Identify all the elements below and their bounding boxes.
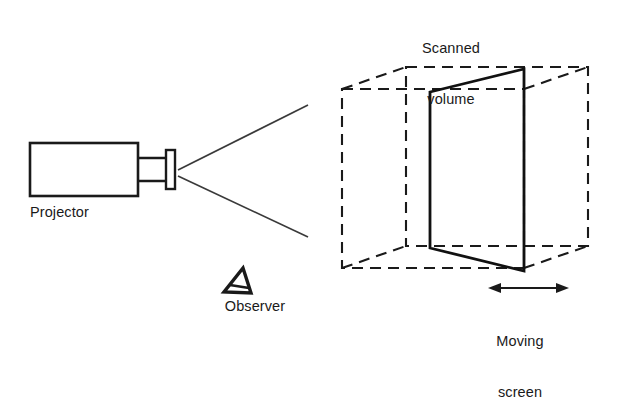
observer-triangle-outline: [224, 268, 251, 293]
arrow-head-left-icon: [488, 283, 501, 293]
observer-eye-triangle-icon: [224, 268, 251, 293]
moving-screen-label-line1: Moving: [460, 333, 580, 350]
projector-label: Projector: [30, 204, 160, 221]
moving-screen-label-line2: screen: [460, 384, 580, 401]
projector-neck: [138, 158, 166, 181]
moving-direction-arrow: [488, 283, 569, 293]
scanned-volume-label-line2: volume: [381, 91, 521, 108]
projector-group: [30, 143, 175, 196]
observer-inner-stroke: [230, 285, 249, 288]
observer-label: Observer: [190, 298, 320, 315]
scanned-volume-label: Scanned volume: [381, 6, 521, 125]
cube-edge-bot-left: [342, 246, 406, 268]
beam-lower-ray: [178, 176, 308, 237]
cube-edge-top-right: [524, 67, 588, 89]
scanned-volume-label-line1: Scanned: [381, 40, 521, 57]
projection-beam-group: [178, 105, 308, 237]
beam-upper-ray: [178, 105, 308, 170]
cube-edge-bot-right: [524, 246, 588, 268]
projector-lens: [166, 150, 175, 189]
moving-screen-label: Moving screen: [460, 299, 580, 401]
projector-body: [30, 143, 138, 196]
arrow-head-right-icon: [556, 283, 569, 293]
